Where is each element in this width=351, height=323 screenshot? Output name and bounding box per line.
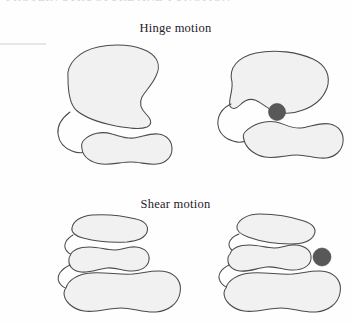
- hinge-open-linker-strand: [58, 112, 90, 153]
- hinge-closed-upper-domain: [230, 51, 329, 113]
- shear-closed-ligand-circle: [313, 248, 331, 266]
- shear-open-top-domain: [72, 215, 148, 243]
- shear-closed-linker-strand-2: [219, 265, 238, 289]
- shear-closed-top-domain: [237, 214, 315, 244]
- shear-open-state: [58, 215, 180, 312]
- left-margin-rule: [0, 43, 46, 45]
- shear-open-linker-strand-2: [58, 265, 78, 290]
- domain-motion-illustration: [0, 0, 351, 323]
- hinge-open-lower-domain: [82, 133, 172, 165]
- clipped-page-header-text: PROTEIN STRUCTURE AND FUNCTION: [6, 0, 231, 3]
- clipped-page-header: PROTEIN STRUCTURE AND FUNCTION: [0, 0, 351, 7]
- hinge-open-upper-domain: [68, 45, 159, 129]
- hinge-closed-ligand-circle: [269, 104, 286, 121]
- figure-canvas: PROTEIN STRUCTURE AND FUNCTION Hinge mot…: [0, 0, 351, 323]
- hinge-closed-linker-strand: [218, 104, 249, 142]
- shear-motion-title: Shear motion: [0, 197, 351, 212]
- hinge-closed-state: [218, 51, 343, 158]
- shear-closed-linker-strand-1: [229, 234, 247, 254]
- hinge-motion-title: Hinge motion: [0, 21, 351, 36]
- shear-closed-middle-domain: [228, 245, 311, 271]
- shear-open-linker-strand-1: [65, 235, 83, 256]
- hinge-closed-lower-domain: [243, 121, 343, 158]
- shear-closed-state: [219, 214, 340, 312]
- shear-open-middle-domain: [69, 247, 149, 272]
- shear-open-bottom-domain: [64, 271, 180, 312]
- shear-closed-bottom-domain: [224, 271, 340, 312]
- hinge-open-state: [58, 45, 172, 164]
